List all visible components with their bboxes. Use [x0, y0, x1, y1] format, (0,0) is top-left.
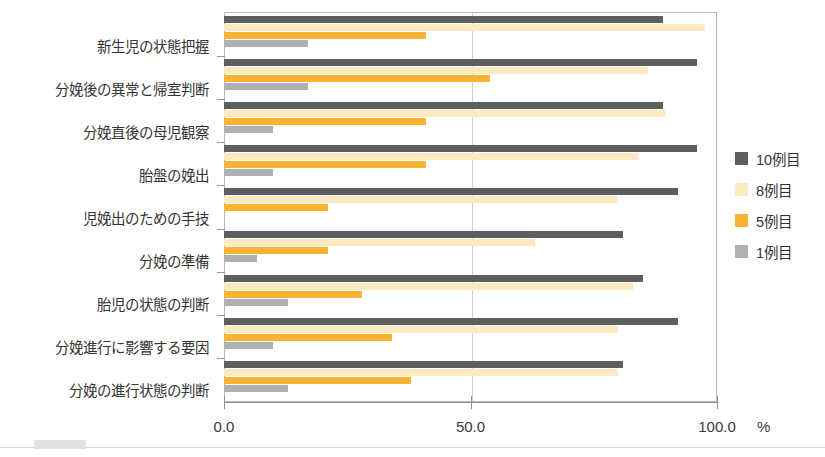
- legend-swatch-icon: [735, 214, 748, 227]
- bar-group: [224, 142, 717, 185]
- bar-1例目: [224, 342, 273, 349]
- bar-10例目: [224, 145, 697, 152]
- bar-10例目: [224, 102, 663, 109]
- legend-swatch-icon: [735, 152, 748, 165]
- legend-swatch-icon: [735, 245, 748, 258]
- bar-5例目: [224, 75, 490, 82]
- category-label: 胎盤の娩出: [9, 169, 209, 184]
- x-axis-tick: [471, 396, 472, 409]
- bar-group: [224, 228, 717, 271]
- bar-8例目: [224, 369, 618, 376]
- category-axis-labels: 新生児の状態把握分娩後の異常と帰室判断分娩直後の母児観察胎盤の娩出児娩出のための…: [5, 13, 217, 401]
- bar-1例目: [224, 40, 308, 47]
- bar-group: [224, 13, 717, 56]
- bar-5例目: [224, 334, 392, 341]
- bar-10例目: [224, 231, 623, 238]
- legend-label: 10例目: [756, 148, 800, 169]
- category-label: 新生児の状態把握: [9, 40, 209, 55]
- bar-group: [224, 185, 717, 228]
- bar-1例目: [224, 83, 308, 90]
- bar-8例目: [224, 67, 648, 74]
- bar-10例目: [224, 361, 623, 368]
- bar-8例目: [224, 283, 633, 290]
- bar-1例目: [224, 126, 273, 133]
- bar-5例目: [224, 247, 328, 254]
- bar-8例目: [224, 239, 535, 246]
- legend-swatch-icon: [735, 183, 748, 196]
- legend-item[interactable]: 5例目: [735, 205, 825, 236]
- bar-group: [224, 358, 717, 401]
- horizontal-bar-chart: 新生児の状態把握分娩後の異常と帰室判断分娩直後の母児観察胎盤の娩出児娩出のための…: [0, 0, 825, 457]
- legend-label: 1例目: [756, 241, 792, 262]
- footer-divider: [0, 447, 825, 448]
- category-label: 分娩進行に影響する要因: [9, 341, 209, 356]
- bar-groups: [224, 13, 717, 401]
- bar-5例目: [224, 161, 426, 168]
- x-axis-tick-label: 50.0: [456, 418, 485, 435]
- bar-5例目: [224, 204, 328, 211]
- legend-item[interactable]: 1例目: [735, 236, 825, 267]
- bar-10例目: [224, 188, 678, 195]
- x-axis-tick-label: 100.0: [698, 418, 736, 435]
- bar-group: [224, 272, 717, 315]
- bar-8例目: [224, 153, 638, 160]
- category-label: 児娩出のための手技: [9, 212, 209, 227]
- bar-8例目: [224, 326, 618, 333]
- x-axis-tick: [717, 396, 718, 409]
- category-label: 分娩の進行状態の判断: [9, 384, 209, 399]
- bar-8例目: [224, 110, 665, 117]
- bar-group: [224, 56, 717, 99]
- legend-label: 5例目: [756, 210, 792, 231]
- bar-1例目: [224, 169, 273, 176]
- bar-1例目: [224, 255, 257, 262]
- bar-5例目: [224, 377, 411, 384]
- bar-5例目: [224, 291, 362, 298]
- category-label: 胎児の状態の判断: [9, 298, 209, 313]
- bar-8例目: [224, 24, 705, 31]
- bar-10例目: [224, 318, 678, 325]
- bar-10例目: [224, 59, 697, 66]
- bar-10例目: [224, 275, 643, 282]
- x-axis-tick-label: 0.0: [214, 418, 235, 435]
- category-label: 分娩直後の母児観察: [9, 126, 209, 141]
- bar-8例目: [224, 196, 618, 203]
- legend-label: 8例目: [756, 179, 792, 200]
- legend-item[interactable]: 10例目: [735, 143, 825, 174]
- bar-10例目: [224, 16, 663, 23]
- bar-group: [224, 315, 717, 358]
- bar-1例目: [224, 385, 288, 392]
- bar-5例目: [224, 32, 426, 39]
- footer-marker: [34, 440, 86, 449]
- bar-1例目: [224, 299, 288, 306]
- x-axis-tick: [224, 396, 225, 409]
- x-axis-unit-label: %: [757, 418, 770, 435]
- bar-5例目: [224, 118, 426, 125]
- category-label: 分娩後の異常と帰室判断: [9, 83, 209, 98]
- category-label: 分娩の準備: [9, 255, 209, 270]
- legend: 10例目8例目5例目1例目: [735, 143, 825, 267]
- bar-group: [224, 99, 717, 142]
- legend-item[interactable]: 8例目: [735, 174, 825, 205]
